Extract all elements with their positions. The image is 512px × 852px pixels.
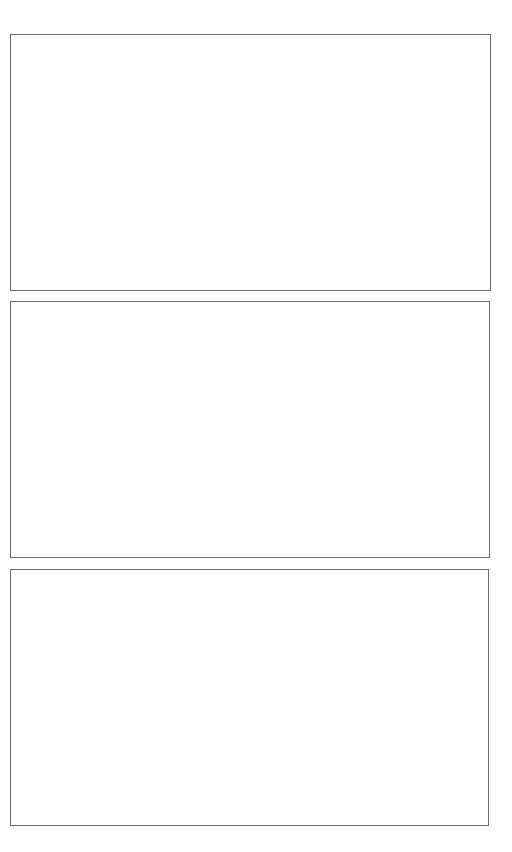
empty-frame-2 bbox=[10, 301, 490, 558]
empty-frame-3 bbox=[10, 569, 489, 826]
empty-frame-1 bbox=[10, 34, 491, 291]
